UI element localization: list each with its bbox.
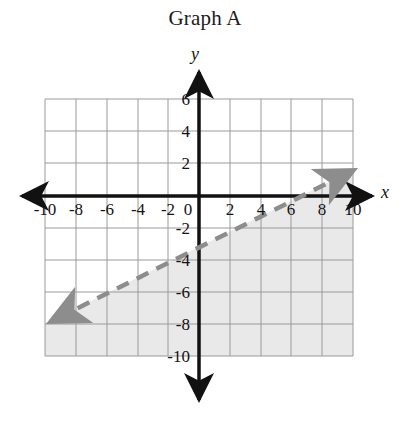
graph-figure: Graph A y x: [0, 0, 410, 428]
x-tick-label: -10: [27, 200, 63, 220]
y-tick-label: 6: [168, 90, 190, 110]
x-tick-label: 0: [180, 200, 196, 220]
y-axis-label: y: [191, 44, 199, 65]
x-axis-label: x: [381, 182, 389, 203]
y-tick-label: -4: [160, 251, 190, 271]
x-tick-label: 10: [339, 200, 367, 220]
y-tick-label: 4: [168, 122, 190, 142]
y-tick-label: -2: [160, 219, 190, 239]
y-tick-label: 2: [168, 154, 190, 174]
y-tick-label: -10: [152, 347, 190, 367]
y-tick-label: -8: [160, 315, 190, 335]
page-title: Graph A: [0, 6, 410, 31]
x-tick-label: 4: [253, 200, 269, 220]
x-tick-label: -8: [62, 200, 90, 220]
x-tick-label: -4: [124, 200, 152, 220]
x-tick-label: -2: [154, 200, 182, 220]
x-tick-label: 2: [222, 200, 238, 220]
x-tick-label: 8: [314, 200, 330, 220]
x-tick-label: -6: [93, 200, 121, 220]
y-tick-label: -6: [160, 283, 190, 303]
x-tick-label: 6: [283, 200, 299, 220]
